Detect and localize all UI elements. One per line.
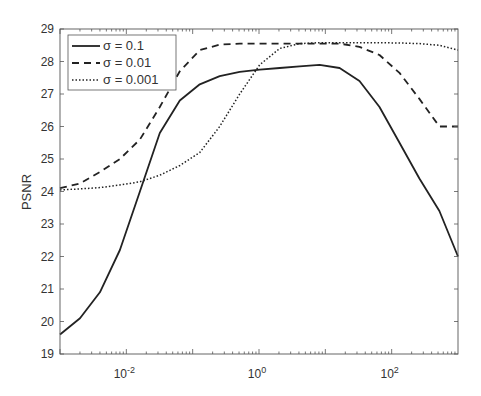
y-tick-label: 22 [41, 250, 55, 264]
psnr-line-chart: 192021222324252627282910-2100102 σ = 0.1… [0, 0, 481, 396]
x-tick-label: 10-2 [114, 365, 135, 381]
legend-label-1: σ = 0.01 [103, 55, 151, 70]
y-tick-label: 24 [41, 185, 55, 199]
y-tick-label: 21 [41, 282, 55, 296]
series-line-solid [60, 65, 458, 335]
y-tick-label: 19 [41, 347, 55, 361]
y-tick-label: 20 [41, 315, 55, 329]
x-tick-label: 100 [248, 365, 266, 381]
y-tick-label: 27 [41, 87, 55, 101]
legend-label-0: σ = 0.1 [103, 38, 144, 53]
y-tick-label: 25 [41, 152, 55, 166]
legend: σ = 0.1 σ = 0.01 σ = 0.001 [68, 35, 176, 90]
x-tick-label: 102 [380, 365, 398, 381]
y-tick-label: 28 [41, 55, 55, 69]
y-tick-label: 26 [41, 120, 55, 134]
y-tick-label: 29 [41, 22, 55, 36]
legend-label-2: σ = 0.001 [103, 72, 158, 87]
y-tick-label: 23 [41, 217, 55, 231]
y-axis-label: PSNR [19, 174, 34, 210]
